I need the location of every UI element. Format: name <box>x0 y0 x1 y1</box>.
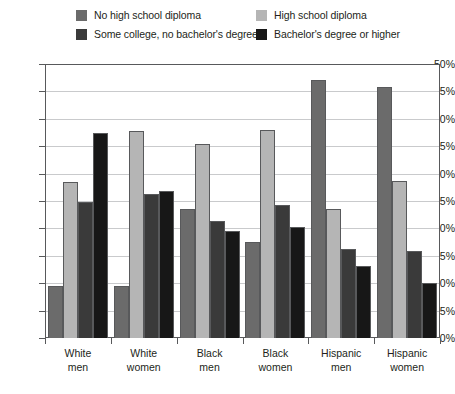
x-tick-label-line2: women <box>111 361 177 375</box>
chart-legend: No high school diploma High school diplo… <box>0 8 455 54</box>
bar <box>245 242 260 338</box>
x-tick-label-line1: White <box>45 347 111 361</box>
bar-chart: No high school diploma High school diplo… <box>0 0 455 394</box>
bar <box>326 209 341 338</box>
x-tick-label: Whitewomen <box>111 347 177 374</box>
x-tick-mark <box>111 338 112 344</box>
x-tick-label-line1: White <box>111 347 177 361</box>
x-tick-mark <box>374 338 375 344</box>
bar <box>341 249 356 338</box>
legend-label-bachelors-or-higher: Bachelor's degree or higher <box>274 29 400 40</box>
legend-label-some-college: Some college, no bachelor's degree <box>94 29 258 40</box>
legend-label-high-school-diploma: High school diploma <box>274 10 367 21</box>
bar-group <box>308 64 374 338</box>
x-tick-mark <box>308 338 309 344</box>
bar-group <box>111 64 177 338</box>
legend-swatch-bachelors-or-higher <box>256 29 267 40</box>
legend-item-some-college: Some college, no bachelor's degree <box>76 29 258 40</box>
bar <box>180 209 195 338</box>
x-tick-mark <box>440 338 441 344</box>
x-tick-label-line2: women <box>243 361 309 375</box>
x-tick-label-line1: Hispanic <box>374 347 440 361</box>
bar <box>225 231 240 338</box>
bar <box>129 131 144 338</box>
x-tick-label: Whitemen <box>45 347 111 374</box>
x-tick-label-line2: men <box>308 361 374 375</box>
x-tick-mark <box>45 338 46 344</box>
legend-swatch-high-school-diploma <box>256 10 267 21</box>
legend-label-no-high-school-diploma: No high school diploma <box>94 10 201 21</box>
legend-item-high-school-diploma: High school diploma <box>256 10 367 21</box>
bar <box>48 286 63 338</box>
x-tick-label-line2: men <box>177 361 243 375</box>
x-tick-label-line1: Black <box>177 347 243 361</box>
bar <box>93 133 108 338</box>
bar <box>78 202 93 338</box>
bar-group <box>243 64 309 338</box>
bar <box>290 227 305 338</box>
x-tick-label: Blackmen <box>177 347 243 374</box>
bar <box>195 144 210 338</box>
bar <box>377 87 392 338</box>
bar <box>311 80 326 338</box>
bar-groups <box>45 64 440 338</box>
bar <box>260 130 275 338</box>
bar <box>407 251 422 338</box>
bar <box>392 181 407 338</box>
legend-item-bachelors-or-higher: Bachelor's degree or higher <box>256 29 400 40</box>
legend-item-no-high-school-diploma: No high school diploma <box>76 10 201 21</box>
bar <box>275 205 290 338</box>
x-tick-label-line1: Hispanic <box>308 347 374 361</box>
bar <box>159 191 174 338</box>
legend-swatch-some-college <box>76 29 87 40</box>
bar-group <box>177 64 243 338</box>
bar <box>114 286 129 338</box>
bar <box>422 283 437 338</box>
bar-group <box>45 64 111 338</box>
bar <box>144 194 159 338</box>
bar-group <box>374 64 440 338</box>
x-tick-label: Hispanicwomen <box>374 347 440 374</box>
x-tick-label: Blackwomen <box>243 347 309 374</box>
x-tick-label: Hispanicmen <box>308 347 374 374</box>
bar <box>356 266 371 338</box>
x-tick-mark <box>177 338 178 344</box>
x-tick-label-line2: women <box>374 361 440 375</box>
bar <box>63 182 78 338</box>
x-tick-mark <box>243 338 244 344</box>
x-tick-label-line2: men <box>45 361 111 375</box>
bar <box>210 221 225 338</box>
x-tick-label-line1: Black <box>243 347 309 361</box>
legend-swatch-no-high-school-diploma <box>76 10 87 21</box>
